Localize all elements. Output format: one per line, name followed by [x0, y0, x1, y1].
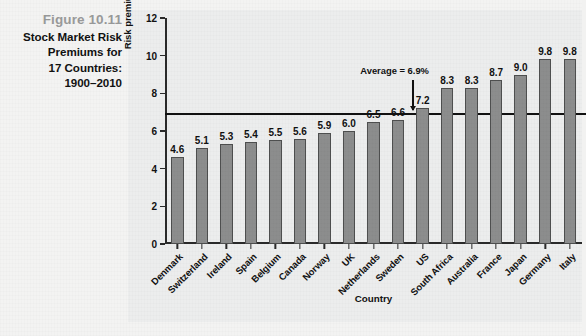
y-tick-label: 8 — [151, 88, 157, 99]
bar-item[interactable]: 5.4 — [239, 18, 264, 244]
x-tick — [397, 244, 398, 249]
bar-item[interactable]: 5.6 — [288, 18, 313, 244]
bar[interactable] — [343, 131, 356, 244]
plot-area: 024681012 Average = 6.9% 4.65.15.35.45.5… — [165, 18, 582, 244]
bar-item[interactable]: 5.3 — [214, 18, 239, 244]
bar-value-label: 5.9 — [318, 120, 332, 131]
x-axis-label: Country — [165, 293, 582, 304]
caption-line-2: Premiums for — [0, 44, 122, 60]
x-tick — [275, 244, 276, 249]
bar[interactable] — [416, 108, 429, 244]
x-tick — [373, 244, 374, 249]
y-tick-label: 4 — [151, 163, 157, 174]
x-tick — [226, 244, 227, 249]
bar-item[interactable]: 5.9 — [312, 18, 337, 244]
bar[interactable] — [490, 80, 503, 244]
x-tick — [545, 244, 546, 249]
bar-item[interactable]: 6.5 — [361, 18, 386, 244]
x-tick — [422, 244, 423, 249]
bar-item[interactable]: 5.1 — [190, 18, 215, 244]
bar-series: 4.65.15.35.45.55.65.96.06.56.67.28.38.38… — [165, 18, 582, 244]
y-tick-label: 0 — [151, 239, 157, 250]
x-tick — [324, 244, 325, 249]
y-tick-label: 2 — [151, 201, 157, 212]
bar-value-label: 8.3 — [465, 75, 479, 86]
bar-item[interactable]: 7.2 — [410, 18, 435, 244]
bar[interactable] — [294, 139, 307, 244]
bar[interactable] — [196, 148, 209, 244]
bar-item[interactable]: 5.5 — [263, 18, 288, 244]
figure-caption: Figure 10.11 Stock Market Risk Premiums … — [0, 12, 122, 91]
bar-value-label: 5.1 — [195, 135, 209, 146]
bar-item[interactable]: 9.8 — [533, 18, 558, 244]
bar-value-label: 8.3 — [440, 75, 454, 86]
bar-value-label: 9.8 — [538, 46, 552, 57]
bar[interactable] — [245, 142, 258, 244]
x-tick — [250, 244, 251, 249]
bar-value-label: 7.2 — [416, 95, 430, 106]
bar-value-label: 5.3 — [219, 131, 233, 142]
x-tick — [496, 244, 497, 249]
bar-value-label: 9.0 — [514, 62, 528, 73]
caption-line-3: 17 Countries: — [0, 60, 122, 76]
figure-number: Figure 10.11 — [0, 12, 122, 28]
bar-item[interactable]: 4.6 — [165, 18, 190, 244]
bar-item[interactable]: 8.7 — [484, 18, 509, 244]
x-tick — [471, 244, 472, 249]
bar-item[interactable]: 9.8 — [558, 18, 583, 244]
x-tick-label: Ireland — [205, 251, 234, 280]
bar-value-label: 5.5 — [268, 127, 282, 138]
bar-item[interactable]: 8.3 — [459, 18, 484, 244]
caption-line-4: 1900–2010 — [0, 75, 122, 91]
bar-value-label: 5.6 — [293, 126, 307, 137]
bar[interactable] — [465, 88, 478, 244]
bar[interactable] — [514, 75, 527, 245]
bar-item[interactable]: 8.3 — [435, 18, 460, 244]
bar-value-label: 6.6 — [391, 107, 405, 118]
bar[interactable] — [318, 133, 331, 244]
bar[interactable] — [220, 144, 233, 244]
bar[interactable] — [392, 120, 405, 244]
x-tick — [446, 244, 447, 249]
y-axis-label: Risk premium (% per year) — [122, 0, 133, 70]
x-tick — [177, 244, 178, 249]
bar[interactable] — [539, 59, 552, 244]
bar-value-label: 9.8 — [563, 46, 577, 57]
y-tick-label: 6 — [151, 126, 157, 137]
bar[interactable] — [269, 140, 282, 244]
x-tick — [569, 244, 570, 249]
bar-item[interactable]: 6.6 — [386, 18, 411, 244]
x-tick — [299, 244, 300, 249]
x-tick-label: France — [475, 251, 504, 280]
bar-value-label: 6.5 — [367, 109, 381, 120]
x-tick — [520, 244, 521, 249]
bar-item[interactable]: 9.0 — [508, 18, 533, 244]
y-tick-label: 10 — [146, 50, 157, 61]
caption-line-1: Stock Market Risk — [0, 29, 122, 45]
bar[interactable] — [441, 88, 454, 244]
bar-value-label: 5.4 — [244, 129, 258, 140]
bar-value-label: 8.7 — [489, 67, 503, 78]
bar[interactable] — [171, 157, 184, 244]
bar[interactable] — [564, 59, 577, 244]
x-tick-label: UK — [339, 251, 356, 268]
y-tick-label: 12 — [146, 13, 157, 24]
source-note — [132, 330, 452, 336]
bar-value-label: 6.0 — [342, 118, 356, 129]
bar[interactable] — [367, 122, 380, 244]
bar-value-label: 4.6 — [170, 144, 184, 155]
x-tick — [348, 244, 349, 249]
x-tick-label: US — [413, 251, 430, 268]
x-tick — [201, 244, 202, 249]
chart-panel: Risk premium (% per year) 024681012 Aver… — [128, 10, 582, 322]
bar-item[interactable]: 6.0 — [337, 18, 362, 244]
x-tick-label: Italy — [557, 251, 578, 272]
